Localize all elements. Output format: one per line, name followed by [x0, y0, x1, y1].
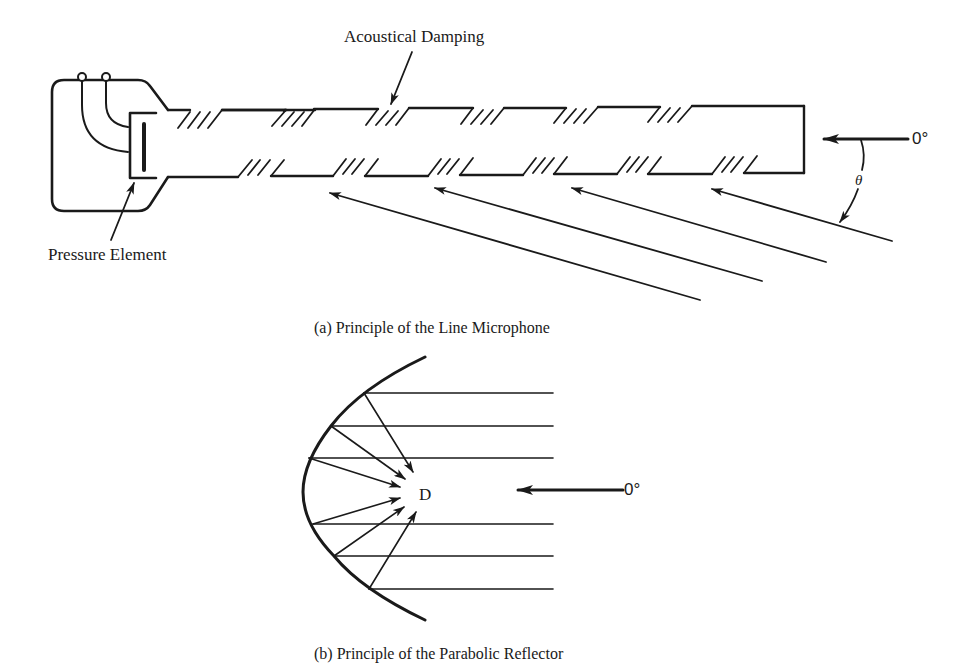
- acoustical-damping-label: Acoustical Damping: [344, 28, 484, 45]
- incident-arrow-3: [572, 188, 826, 262]
- parabolic-dish: [303, 357, 425, 620]
- figure-b-caption: (b) Principle of the Parabolic Reflector: [314, 646, 563, 662]
- zero-degree-label-a: 0°: [912, 130, 928, 147]
- tube-bottom-wall: [168, 173, 804, 177]
- incident-sound-arrows: [330, 188, 892, 300]
- line-microphone-figure: [52, 52, 908, 300]
- incident-arrow-2: [435, 188, 762, 281]
- incident-arrow-4: [712, 189, 892, 241]
- pressure-element-label: Pressure Element: [48, 246, 167, 263]
- microphone-housing: [52, 80, 168, 211]
- theta-angle-arc-lower: [840, 189, 858, 222]
- lead-wire-2: [106, 81, 128, 127]
- tube-top-wall: [168, 106, 804, 111]
- terminal-pin-1: [78, 73, 86, 81]
- theta-label: θ: [855, 173, 862, 188]
- terminal-pin-2: [102, 73, 110, 81]
- parabolic-reflector-figure: [303, 357, 623, 620]
- focus-point-label: D: [419, 486, 431, 503]
- acoustical-damping-pointer: [391, 52, 412, 104]
- figure-a-caption: (a) Principle of the Line Microphone: [314, 320, 550, 336]
- theta-angle-arc: [861, 140, 864, 170]
- zero-degree-label-b: 0°: [624, 481, 640, 498]
- reflected-rays: [309, 393, 416, 589]
